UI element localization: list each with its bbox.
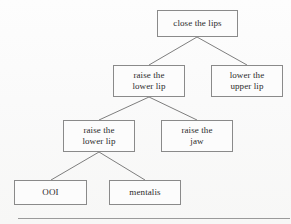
node-label-line2: lower lip <box>132 81 165 92</box>
tree-node-mentalis[interactable]: mentalis <box>109 180 181 205</box>
tree-edge <box>197 37 247 65</box>
node-label-line1: raise the <box>181 125 212 136</box>
node-label-line1: OOI <box>42 187 58 198</box>
node-label-line2: upper lip <box>230 81 263 92</box>
tree-node-close-the-lips[interactable]: close the lips <box>157 10 238 37</box>
tree-edge <box>99 97 149 120</box>
tree-edge <box>149 97 197 120</box>
tree-node-raise-the-lower-lip-level2[interactable]: raise the lower lip <box>63 120 135 152</box>
node-label-line1: lower the <box>230 70 265 81</box>
node-label-line1: raise the <box>83 125 114 136</box>
tree-node-ooi[interactable]: OOI <box>14 180 87 205</box>
node-label-line1: close the lips <box>173 18 221 29</box>
tree-edge <box>99 152 145 180</box>
node-label-line2: lower lip <box>82 136 115 147</box>
node-label-line1: mentalis <box>129 187 160 198</box>
node-label-line2: jaw <box>190 136 203 147</box>
node-label-line1: raise the <box>133 70 164 81</box>
tree-edge <box>149 37 197 65</box>
tree-node-raise-the-jaw[interactable]: raise the jaw <box>161 120 233 152</box>
tree-edge <box>51 152 99 180</box>
diagram-canvas: close the lips raise the lower lip lower… <box>0 0 291 224</box>
tree-node-lower-the-upper-lip[interactable]: lower the upper lip <box>211 65 283 97</box>
tree-node-raise-the-lower-lip-level1[interactable]: raise the lower lip <box>113 65 185 97</box>
page-baseline-rule <box>18 218 290 219</box>
